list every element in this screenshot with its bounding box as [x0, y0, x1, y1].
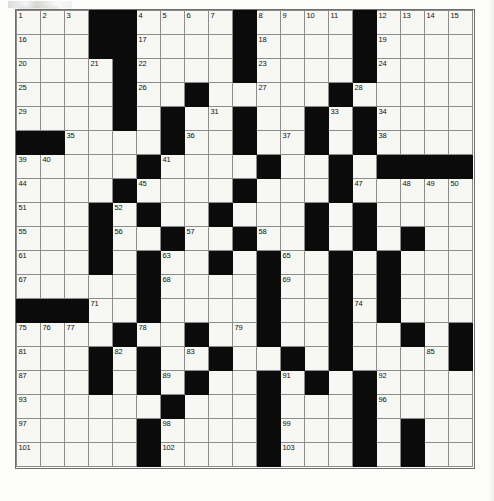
answer-cell[interactable]	[401, 395, 425, 419]
answer-cell[interactable]	[233, 155, 257, 179]
answer-cell[interactable]	[305, 323, 329, 347]
answer-cell[interactable]	[209, 179, 233, 203]
answer-cell[interactable]: 14	[425, 11, 449, 35]
answer-cell[interactable]	[209, 299, 233, 323]
answer-cell[interactable]	[233, 395, 257, 419]
answer-cell[interactable]	[257, 107, 281, 131]
answer-cell[interactable]	[65, 419, 89, 443]
answer-cell[interactable]	[329, 443, 353, 467]
answer-cell[interactable]	[425, 419, 449, 443]
answer-cell[interactable]: 49	[425, 179, 449, 203]
answer-cell[interactable]: 5	[161, 11, 185, 35]
answer-cell[interactable]	[41, 395, 65, 419]
answer-cell[interactable]: 51	[17, 203, 41, 227]
answer-cell[interactable]: 57	[185, 227, 209, 251]
answer-cell[interactable]	[65, 347, 89, 371]
answer-cell[interactable]: 40	[41, 155, 65, 179]
answer-cell[interactable]	[113, 131, 137, 155]
answer-cell[interactable]	[161, 59, 185, 83]
answer-cell[interactable]	[281, 59, 305, 83]
answer-cell[interactable]	[185, 35, 209, 59]
answer-cell[interactable]	[209, 155, 233, 179]
answer-cell[interactable]	[377, 203, 401, 227]
answer-cell[interactable]	[233, 443, 257, 467]
answer-cell[interactable]	[113, 419, 137, 443]
answer-cell[interactable]	[449, 59, 473, 83]
answer-cell[interactable]	[161, 323, 185, 347]
answer-cell[interactable]: 55	[17, 227, 41, 251]
answer-cell[interactable]	[113, 371, 137, 395]
answer-cell[interactable]	[65, 107, 89, 131]
answer-cell[interactable]	[305, 59, 329, 83]
answer-cell[interactable]	[41, 371, 65, 395]
answer-cell[interactable]	[377, 443, 401, 467]
answer-cell[interactable]: 77	[65, 323, 89, 347]
answer-cell[interactable]	[233, 419, 257, 443]
answer-cell[interactable]	[89, 395, 113, 419]
answer-cell[interactable]	[161, 203, 185, 227]
answer-cell[interactable]	[329, 35, 353, 59]
answer-cell[interactable]: 27	[257, 83, 281, 107]
answer-cell[interactable]: 89	[161, 371, 185, 395]
answer-cell[interactable]	[65, 371, 89, 395]
answer-cell[interactable]	[209, 83, 233, 107]
answer-cell[interactable]: 78	[137, 323, 161, 347]
answer-cell[interactable]	[137, 395, 161, 419]
answer-cell[interactable]	[401, 35, 425, 59]
answer-cell[interactable]	[89, 179, 113, 203]
answer-cell[interactable]: 75	[17, 323, 41, 347]
answer-cell[interactable]	[257, 179, 281, 203]
answer-cell[interactable]	[449, 35, 473, 59]
answer-cell[interactable]	[41, 443, 65, 467]
answer-cell[interactable]	[137, 227, 161, 251]
answer-cell[interactable]	[137, 107, 161, 131]
answer-cell[interactable]	[209, 443, 233, 467]
answer-cell[interactable]	[449, 107, 473, 131]
answer-cell[interactable]	[449, 251, 473, 275]
answer-cell[interactable]	[89, 155, 113, 179]
answer-cell[interactable]	[425, 107, 449, 131]
answer-cell[interactable]	[353, 251, 377, 275]
answer-cell[interactable]	[233, 203, 257, 227]
answer-cell[interactable]	[185, 203, 209, 227]
answer-cell[interactable]	[41, 35, 65, 59]
answer-cell[interactable]	[65, 395, 89, 419]
answer-cell[interactable]: 63	[161, 251, 185, 275]
answer-cell[interactable]	[425, 395, 449, 419]
answer-cell[interactable]	[305, 35, 329, 59]
answer-cell[interactable]: 67	[17, 275, 41, 299]
answer-cell[interactable]	[65, 227, 89, 251]
answer-cell[interactable]	[401, 203, 425, 227]
answer-cell[interactable]	[185, 419, 209, 443]
answer-cell[interactable]	[113, 395, 137, 419]
answer-cell[interactable]: 71	[89, 299, 113, 323]
answer-cell[interactable]	[401, 251, 425, 275]
answer-cell[interactable]: 79	[233, 323, 257, 347]
answer-cell[interactable]	[209, 59, 233, 83]
answer-cell[interactable]: 76	[41, 323, 65, 347]
answer-cell[interactable]	[161, 179, 185, 203]
answer-cell[interactable]: 15	[449, 11, 473, 35]
answer-cell[interactable]: 39	[17, 155, 41, 179]
answer-cell[interactable]	[113, 275, 137, 299]
answer-cell[interactable]	[449, 371, 473, 395]
answer-cell[interactable]	[425, 443, 449, 467]
answer-cell[interactable]	[113, 299, 137, 323]
answer-cell[interactable]	[65, 155, 89, 179]
answer-cell[interactable]	[353, 275, 377, 299]
answer-cell[interactable]: 2	[41, 11, 65, 35]
answer-cell[interactable]	[353, 323, 377, 347]
answer-cell[interactable]	[185, 179, 209, 203]
answer-cell[interactable]	[161, 83, 185, 107]
answer-cell[interactable]: 3	[65, 11, 89, 35]
crossword-grid[interactable]: 1234567891011121314151617181920212223242…	[16, 10, 473, 467]
answer-cell[interactable]: 61	[17, 251, 41, 275]
answer-cell[interactable]: 36	[185, 131, 209, 155]
answer-cell[interactable]: 44	[17, 179, 41, 203]
answer-cell[interactable]	[449, 203, 473, 227]
answer-cell[interactable]	[425, 299, 449, 323]
answer-cell[interactable]: 18	[257, 35, 281, 59]
answer-cell[interactable]	[185, 275, 209, 299]
answer-cell[interactable]: 96	[377, 395, 401, 419]
answer-cell[interactable]	[425, 35, 449, 59]
